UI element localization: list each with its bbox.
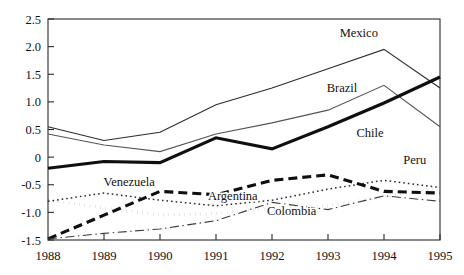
series-label-argentina: Argentina [208,189,258,203]
line-chart: 2.52.01.51.00.50-0.5-1.0-1.5 19881989199… [0,0,464,275]
x-axis-tick-labels: 19881989199019911992199319941995 [36,249,453,263]
x-tick-label: 1988 [36,249,61,263]
x-tick-label: 1992 [260,249,285,263]
series-label-colombia: Colombia [267,204,317,218]
y-tick-label: -1.5 [21,234,41,248]
series-label-brazil: Brazil [327,81,358,95]
y-axis-tick-labels: 2.52.01.51.00.50-0.5-1.0-1.5 [21,13,41,248]
y-tick-label: 2.0 [25,40,41,54]
y-tick-label: 0.5 [25,123,41,137]
y-tick-label: 1.5 [25,68,41,82]
x-axis-ticks [104,234,440,240]
x-tick-label: 1991 [204,249,229,263]
series-lines [48,49,440,239]
chart-container: 2.52.01.51.00.50-0.5-1.0-1.5 19881989199… [0,0,464,275]
x-tick-label: 1995 [428,249,453,263]
y-tick-label: 2.5 [25,13,41,27]
x-tick-label: 1989 [92,249,117,263]
series-label-chile: Chile [356,126,384,140]
x-tick-label: 1994 [372,249,398,263]
y-tick-label: 0 [35,151,41,165]
y-tick-label: -1.0 [21,206,41,220]
series-label-peru: Peru [403,153,427,167]
y-axis-ticks [48,19,54,240]
series-line-brazil [48,85,440,151]
series-label-venezuela: Venezuela [104,175,156,189]
y-tick-label: 1.0 [25,95,41,109]
series-line-chile [48,77,440,168]
x-tick-label: 1993 [316,249,341,263]
y-tick-label: -0.5 [21,178,41,192]
series-label-mexico: Mexico [340,26,378,40]
x-tick-label: 1990 [148,249,173,263]
